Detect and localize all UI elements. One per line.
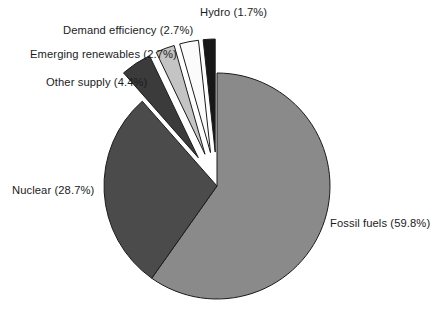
slice-label-other-supply: Other supply (4.4%)	[46, 76, 147, 89]
slice-label-hydro: Hydro (1.7%)	[200, 6, 267, 19]
slice-label-demand-efficiency: Demand efficiency (2.7%)	[63, 24, 193, 37]
slice-label-nuclear: Nuclear (28.7%)	[12, 184, 94, 197]
slice-label-fossil-fuels: Fossil fuels (59.8%)	[330, 217, 430, 230]
pie-chart-figure: Hydro (1.7%) Demand efficiency (2.7%) Em…	[0, 0, 439, 316]
pie-slice-hydro[interactable]	[203, 39, 215, 152]
slice-label-emerging-renewables: Emerging renewables (2.7%)	[30, 48, 177, 61]
